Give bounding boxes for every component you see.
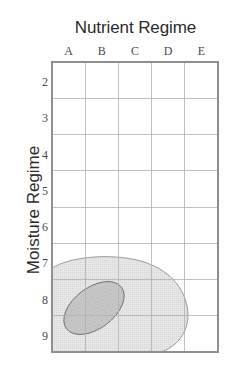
edatopic-grid-figure: Nutrient Regime Moisture Regime A B C D … [0,0,243,371]
plot-area [0,0,243,371]
